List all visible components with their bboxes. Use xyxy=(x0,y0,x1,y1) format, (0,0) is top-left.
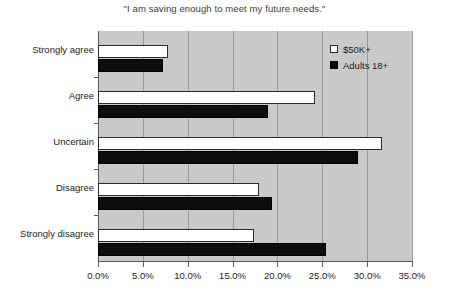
x-axis-tick xyxy=(367,262,368,267)
y-axis-label-agree: Agree xyxy=(0,90,94,101)
y-axis-tick xyxy=(94,123,99,124)
x-axis-tick xyxy=(143,262,144,267)
bar-chart-figure: "I am saving enough to meet my future ne… xyxy=(0,0,449,299)
x-axis-tick xyxy=(322,262,323,267)
x-axis-tick xyxy=(188,262,189,267)
bar-strongly-agree-series-2 xyxy=(98,59,163,72)
x-axis-tick xyxy=(98,262,99,267)
x-axis-tick xyxy=(233,262,234,267)
legend-label: $50K+ xyxy=(343,44,371,55)
y-axis-tick xyxy=(94,169,99,170)
chart-legend: $50K+Adults 18+ xyxy=(330,42,416,74)
y-axis-tick xyxy=(94,215,99,216)
bar-agree-series-1 xyxy=(98,91,315,104)
y-axis-tick xyxy=(94,77,99,78)
bar-strongly-disagree-series-2 xyxy=(98,243,326,256)
y-axis-label-strongly-disagree: Strongly disagree xyxy=(0,228,94,239)
y-axis-label-uncertain: Uncertain xyxy=(0,136,94,147)
bar-uncertain-series-2 xyxy=(98,151,358,164)
chart-title: "I am saving enough to meet my future ne… xyxy=(0,3,449,14)
legend-swatch-icon xyxy=(330,45,338,53)
x-axis-label-350: 35.0% xyxy=(382,270,442,281)
bar-strongly-agree-series-1 xyxy=(98,45,168,58)
legend-item-1: $50K+ xyxy=(330,42,416,56)
bar-agree-series-2 xyxy=(98,105,268,118)
y-axis-label-disagree: Disagree xyxy=(0,182,94,193)
y-axis-label-strongly-agree: Strongly agree xyxy=(0,44,94,55)
x-axis-tick xyxy=(277,262,278,267)
bar-disagree-series-2 xyxy=(98,197,272,210)
legend-item-2: Adults 18+ xyxy=(330,58,416,72)
bar-disagree-series-1 xyxy=(98,183,259,196)
bar-uncertain-series-1 xyxy=(98,137,382,150)
legend-swatch-icon xyxy=(330,61,338,69)
x-axis-tick xyxy=(412,262,413,267)
bar-strongly-disagree-series-1 xyxy=(98,229,254,242)
legend-label: Adults 18+ xyxy=(343,60,388,71)
